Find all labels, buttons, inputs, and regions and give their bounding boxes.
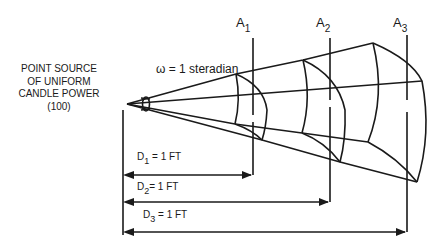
section-a2 [302,60,307,133]
area-label-a2: A2 [316,15,330,34]
section-a3 [368,43,378,142]
section-a1 [235,74,238,124]
cone-diagram [0,0,441,250]
distance-label-d3: D3 = 1 FT [143,209,187,224]
distance-label-d2: D2= 1 FT [137,181,178,196]
area-label-a3: A3 [393,15,407,34]
distance-label-d1: D1 = 1 FT [137,151,181,166]
area-label-a1: A1 [236,15,250,34]
cone-bottom-edge [127,104,417,182]
